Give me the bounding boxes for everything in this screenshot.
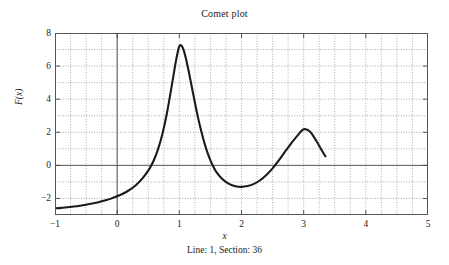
x-axis-label: x (0, 231, 449, 241)
figure-caption: Line: 1, Section: 36 (0, 245, 449, 255)
chart-canvas (55, 33, 428, 215)
y-axis-label: F(x) (14, 89, 24, 105)
x-tick-label: 4 (351, 219, 381, 229)
y-axis-tick-labels: 86420−2 (27, 33, 51, 215)
x-tick-label: 3 (289, 219, 319, 229)
x-tick-label: 2 (227, 219, 257, 229)
x-tick-label: 1 (164, 219, 194, 229)
y-tick-label: 0 (29, 160, 51, 170)
x-tick-label: 0 (102, 219, 132, 229)
y-tick-label: 2 (29, 127, 51, 137)
plot-area (55, 33, 428, 215)
comet-plot-figure: Comet plot 86420−2 −1012345 x F(x) Line:… (0, 0, 449, 265)
y-tick-label: 4 (29, 94, 51, 104)
page-title: Comet plot (0, 8, 449, 19)
y-tick-label: −2 (29, 193, 51, 203)
y-tick-label: 8 (29, 28, 51, 38)
x-tick-label: 5 (413, 219, 443, 229)
y-tick-label: 6 (29, 61, 51, 71)
x-tick-label: −1 (40, 219, 70, 229)
